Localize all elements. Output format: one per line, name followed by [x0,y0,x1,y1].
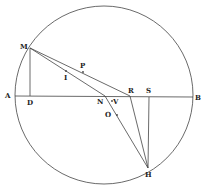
point-label-s: S [146,86,151,95]
segment-nh [105,96,148,168]
point-label-d: D [27,98,33,107]
point-label-p: P [80,61,86,70]
segment-rh [130,96,148,168]
point-label-b: B [195,93,201,102]
point-label-i: I [64,73,67,82]
point-label-o: O [105,110,111,119]
point-label-n: N [97,97,104,106]
line-segments [15,48,193,168]
point-label-v: V [112,97,119,106]
point-dot-i [65,70,67,72]
point-label-h: H [145,170,152,179]
segment-sh [148,97,149,168]
segment-mn [30,48,105,96]
point-label-m: M [20,42,28,51]
point-labels: MDABNRSHPIVO [4,42,201,179]
geometry-diagram: MDABNRSHPIVO [0,0,205,191]
point-label-r: R [128,86,134,95]
segment-mr [30,48,130,96]
point-dot-p [82,71,84,73]
segment-ab [15,96,193,97]
point-label-a: A [4,91,11,100]
point-dot-o [116,114,118,116]
